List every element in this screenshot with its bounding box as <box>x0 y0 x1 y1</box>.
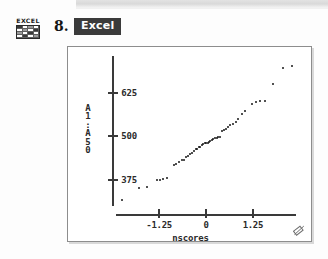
data-point <box>201 144 203 146</box>
excel-badge: Excel <box>74 18 121 35</box>
x-axis-title: nscores <box>68 233 313 243</box>
data-point <box>156 179 158 181</box>
x-axis-tick <box>205 209 207 218</box>
data-point <box>191 152 193 154</box>
x-axis-tick <box>252 209 254 218</box>
data-point <box>237 118 239 120</box>
x-axis-tick <box>158 209 160 218</box>
data-point <box>187 155 189 157</box>
data-point <box>225 128 227 130</box>
excel-icon-grid <box>16 25 40 39</box>
data-point <box>219 136 221 138</box>
resize-handle-icon[interactable] <box>293 224 306 237</box>
data-point <box>227 126 229 128</box>
data-point <box>193 150 195 152</box>
data-point <box>272 83 274 85</box>
data-point <box>146 186 148 188</box>
data-point <box>175 163 177 165</box>
y-axis-tick-label: 625 <box>103 88 137 98</box>
data-point <box>255 101 257 103</box>
chart-figure-frame: A 1 : A 5 0 nscores 625500375-1.2501.25 <box>67 46 312 242</box>
data-point <box>159 179 161 181</box>
data-point <box>232 123 234 125</box>
y-axis-title: A 1 : A 5 0 <box>81 104 95 154</box>
data-point <box>264 100 266 102</box>
x-axis-tick-label: -1.25 <box>139 220 179 230</box>
excel-spreadsheet-icon: EXCEL <box>16 17 40 39</box>
x-axis-tick-label: 0 <box>186 220 226 230</box>
scan-artifact-band <box>76 0 328 7</box>
data-point <box>183 159 185 161</box>
data-point <box>138 187 140 189</box>
data-point <box>235 121 237 123</box>
data-point <box>162 178 164 180</box>
data-point <box>282 67 284 69</box>
x-axis-tick-label: 1.25 <box>233 220 273 230</box>
data-point <box>121 199 123 201</box>
data-point <box>241 113 243 115</box>
y-axis-tick-label: 500 <box>103 131 137 141</box>
data-point <box>178 161 180 163</box>
data-point <box>291 65 293 67</box>
data-point <box>244 110 246 112</box>
problem-number: 8. <box>54 18 69 34</box>
scatter-plot-area: A 1 : A 5 0 nscores 625500375-1.2501.25 <box>68 47 311 241</box>
y-axis-tick-label: 375 <box>103 175 137 185</box>
data-point <box>166 177 168 179</box>
data-point <box>229 124 231 126</box>
scan-artifact-band-edge <box>76 7 328 9</box>
data-point <box>196 148 198 150</box>
data-point <box>251 103 253 105</box>
figure-page: EXCEL 8. Excel A 1 : A 5 0 nscores <box>0 0 328 259</box>
data-point <box>259 100 261 102</box>
excel-icon-word: EXCEL <box>15 17 40 24</box>
y-axis-title-char: 0 <box>81 146 95 154</box>
problem-header: EXCEL 8. Excel <box>0 14 328 44</box>
